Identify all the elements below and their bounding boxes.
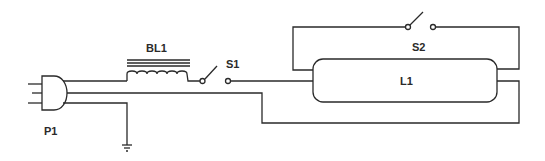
- label-bl1: BL1: [146, 42, 167, 54]
- schematic-svg: P1 BL1 S1 L1 S2: [0, 0, 545, 161]
- ballast-bl1: [127, 60, 200, 81]
- circuit-diagram: P1 BL1 S1 L1 S2: [0, 0, 545, 161]
- label-s2: S2: [412, 41, 425, 53]
- wire-ground: [63, 103, 127, 145]
- switch-s2[interactable]: [406, 12, 436, 30]
- label-s1: S1: [226, 58, 239, 70]
- plug-p1: [28, 76, 67, 110]
- wire-s2-left: [293, 27, 406, 70]
- ground-icon: [122, 145, 132, 151]
- label-l1: L1: [400, 75, 413, 87]
- label-p1: P1: [44, 125, 57, 137]
- wire-s2-right: [436, 27, 520, 69]
